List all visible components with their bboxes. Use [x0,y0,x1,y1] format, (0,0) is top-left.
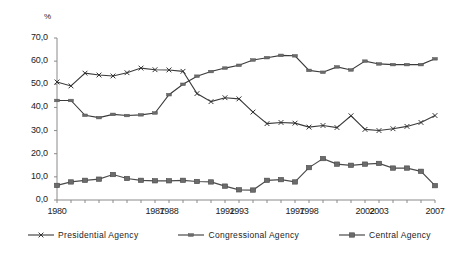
x-axis-tick-label: 2007 [421,206,449,216]
y-axis-tick-label: 0,0 [14,194,48,204]
data-point-marker [321,71,326,74]
data-point-marker [405,63,410,66]
y-axis-tick-label: 30,0 [14,125,48,135]
data-point-marker [83,114,88,117]
x-axis-tick-label: 1993 [225,206,253,216]
legend-label: Presidential Agency [58,230,138,240]
data-point-marker [237,64,242,67]
data-point-marker [279,54,284,57]
series-line [57,68,435,130]
data-point-marker [54,183,59,187]
data-point-marker [209,70,214,73]
data-point-marker [166,179,171,183]
x-axis-tick-label: 2003 [365,206,393,216]
data-point-marker [153,112,158,115]
legend-marker-square-icon [339,230,365,240]
y-axis-tick-label: 70,0 [14,32,48,42]
y-axis-tick-label: 10,0 [14,171,48,181]
data-point-marker [363,60,368,63]
data-point-marker [348,163,353,167]
legend-item[interactable]: Presidential Agency [28,230,138,240]
data-point-marker [152,179,157,183]
legend-marker-dash-icon [178,230,204,240]
data-point-marker [110,172,115,176]
data-point-marker [320,156,325,160]
data-point-marker [208,180,213,184]
data-point-marker [97,116,102,119]
legend-item[interactable]: Central Agency [339,230,431,240]
series-2 [55,54,438,119]
data-point-marker [139,114,144,117]
y-axis-tick-label: 20,0 [14,148,48,158]
data-point-marker [362,162,367,166]
data-point-marker [194,179,199,183]
data-point-marker [306,165,311,169]
data-point-marker [349,233,354,237]
data-point-marker [433,58,438,61]
data-point-marker [334,162,339,166]
data-point-marker [181,83,186,86]
data-point-marker [250,188,255,192]
series-3 [54,156,437,192]
y-axis-tick-label: 60,0 [14,55,48,65]
data-point-marker [418,169,423,173]
line-chart: % 70,060,050,040,030,020,010,00,0 198019… [0,0,459,255]
legend-label: Congressional Agency [208,230,299,240]
y-axis-unit-label: % [44,12,51,21]
data-point-marker [68,180,73,184]
data-point-marker [223,67,228,70]
data-point-marker [236,188,241,192]
data-point-marker [349,69,354,72]
data-point-marker [390,166,395,170]
data-point-marker [376,161,381,165]
data-point-marker [55,99,60,102]
data-point-marker [167,93,172,96]
data-point-marker [432,183,437,187]
data-point-marker [335,66,340,69]
data-point-marker [180,178,185,182]
legend-label: Central Agency [369,230,431,240]
data-point-marker [293,55,298,58]
data-point-marker [251,59,256,62]
y-axis-tick-label: 40,0 [14,101,48,111]
data-point-marker [265,56,270,59]
data-point-marker [391,63,396,66]
data-point-marker [111,113,116,116]
chart-legend: Presidential AgencyCongressional AgencyC… [0,230,459,240]
data-point-marker [82,178,87,182]
x-axis-tick-label: 1998 [295,206,323,216]
plot-area [0,0,459,255]
data-point-marker [124,176,129,180]
data-point-marker [138,178,143,182]
legend-marker-x-icon [28,230,54,240]
data-point-marker [292,180,297,184]
data-point-marker [189,234,194,237]
data-point-marker [264,178,269,182]
data-point-marker [195,75,200,78]
data-point-marker [69,99,74,102]
series-1 [55,66,438,133]
legend-item[interactable]: Congressional Agency [178,230,299,240]
data-point-marker [307,69,312,72]
x-axis-tick-label: 1988 [155,206,183,216]
x-axis-tick-label: 1980 [43,206,71,216]
data-point-marker [377,63,382,66]
y-axis-tick-label: 50,0 [14,78,48,88]
data-point-marker [125,114,130,117]
data-point-marker [404,166,409,170]
data-point-marker [278,177,283,181]
data-point-marker [419,63,424,66]
data-point-marker [222,184,227,188]
data-point-marker [96,177,101,181]
